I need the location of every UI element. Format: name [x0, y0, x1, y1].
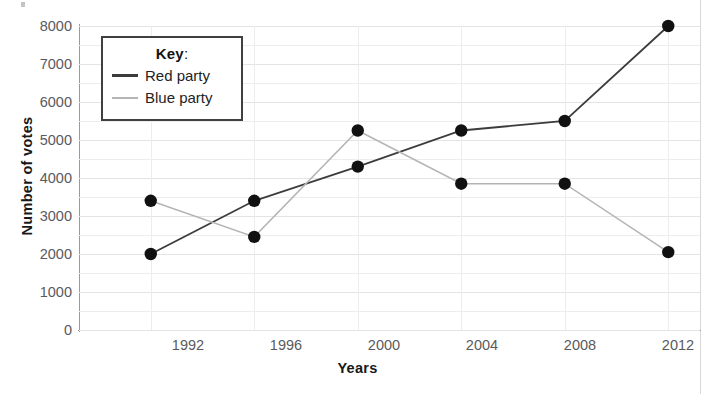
legend-item-red-party: Red party	[103, 67, 241, 84]
x-axis-title: Years	[0, 360, 715, 376]
legend-line-swatch-icon	[112, 74, 138, 76]
legend-item-label: Blue party	[145, 89, 213, 106]
legend-title-colon: :	[184, 45, 188, 62]
data-point-marker	[559, 115, 571, 127]
y-tick-label: 8000	[12, 19, 72, 33]
x-tick-label: 1992	[148, 337, 228, 353]
legend-item-blue-party: Blue party	[103, 89, 241, 106]
data-point-marker	[455, 124, 467, 136]
data-point-marker	[662, 20, 674, 32]
x-tick-label: 2008	[540, 337, 620, 353]
legend-line-swatch-icon	[112, 97, 138, 99]
data-point-marker	[248, 231, 260, 243]
data-point-marker	[145, 195, 157, 207]
x-tick-label: 2004	[442, 337, 522, 353]
data-point-marker	[248, 195, 260, 207]
gridline-horizontal	[79, 330, 700, 331]
y-axis-title: Number of votes	[19, 86, 35, 266]
legend-title: Key:	[103, 45, 241, 62]
data-point-marker	[662, 246, 674, 258]
data-point-marker	[352, 160, 364, 172]
y-tick-label: 7000	[12, 57, 72, 71]
x-tick-label: 2012	[638, 337, 715, 353]
data-point-marker	[352, 124, 364, 136]
x-tick-label: 2000	[344, 337, 424, 353]
x-tick-label: 1996	[246, 337, 326, 353]
legend-title-text: Key	[156, 45, 184, 62]
legend-item-label: Red party	[145, 67, 210, 84]
data-point-marker	[145, 248, 157, 260]
y-tick-label: 1000	[12, 285, 72, 299]
legend-box: Key: Red party Blue party	[101, 36, 243, 121]
y-tick-label: 0	[12, 323, 72, 337]
data-point-marker	[455, 178, 467, 190]
data-point-marker	[559, 178, 571, 190]
chart-figure: 8000 7000 6000 5000 4000 3000 2000 1000 …	[0, 0, 715, 394]
